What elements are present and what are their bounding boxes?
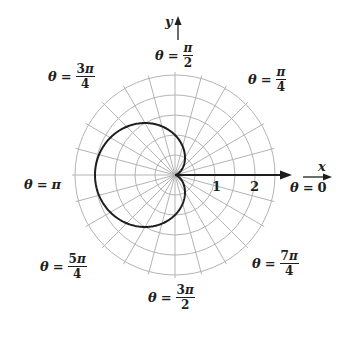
pi-symbol: π bbox=[184, 41, 193, 55]
angle-label-3pi-over-4: θ = 3π 4 bbox=[48, 63, 95, 90]
denominator: 4 bbox=[81, 77, 89, 90]
radial-tick-2: 2 bbox=[250, 180, 259, 193]
numerator-coef: 3 bbox=[177, 283, 185, 297]
radial-tick-1: 1 bbox=[212, 180, 221, 193]
pi-symbol: π bbox=[85, 62, 94, 76]
fraction: 7π 4 bbox=[280, 250, 299, 277]
angle-label-pi: θ = π bbox=[24, 178, 61, 191]
equals-sign: = bbox=[37, 178, 48, 191]
pi-symbol: π bbox=[277, 65, 286, 79]
pi-symbol: π bbox=[185, 283, 194, 297]
angle-label-pi-over-4: θ = π 4 bbox=[248, 66, 286, 93]
grid-spoke bbox=[175, 102, 248, 175]
theta-symbol: θ bbox=[148, 291, 157, 304]
angle-label-5pi-over-4: θ = 5π 4 bbox=[40, 253, 87, 280]
numerator-coef: 7 bbox=[281, 249, 289, 263]
grid-spoke bbox=[102, 175, 175, 248]
theta-symbol: θ bbox=[48, 70, 57, 83]
angle-value: 0 bbox=[318, 181, 327, 194]
fraction: π 4 bbox=[276, 66, 287, 93]
denominator: 2 bbox=[184, 56, 192, 69]
theta-symbol: θ bbox=[155, 49, 164, 62]
denominator: 4 bbox=[73, 267, 81, 280]
theta-symbol: θ bbox=[248, 73, 257, 86]
equals-sign: = bbox=[61, 70, 72, 83]
angle-label-pi-over-2: θ = π 2 bbox=[155, 42, 193, 69]
pi-symbol: π bbox=[289, 249, 298, 263]
equals-sign: = bbox=[161, 291, 172, 304]
polar-axis-arrow bbox=[175, 171, 292, 180]
denominator: 4 bbox=[277, 80, 285, 93]
numerator-coef: 5 bbox=[69, 252, 77, 266]
theta-symbol: θ bbox=[290, 181, 299, 194]
equals-sign: = bbox=[168, 49, 179, 62]
denominator: 2 bbox=[181, 298, 189, 311]
fraction: 3π 4 bbox=[76, 63, 95, 90]
pi-symbol: π bbox=[77, 252, 86, 266]
y-axis-arrow bbox=[175, 16, 182, 40]
grid-spoke bbox=[102, 102, 175, 175]
angle-label-zero: θ = 0 bbox=[290, 181, 327, 194]
numerator-coef: 3 bbox=[77, 62, 85, 76]
y-axis-label: y bbox=[165, 15, 173, 28]
denominator: 4 bbox=[285, 264, 293, 277]
fraction: 5π 4 bbox=[68, 253, 87, 280]
theta-symbol: θ bbox=[24, 178, 33, 191]
equals-sign: = bbox=[53, 260, 64, 273]
angle-label-7pi-over-4: θ = 7π 4 bbox=[252, 250, 299, 277]
equals-sign: = bbox=[303, 181, 314, 194]
x-axis-label: x bbox=[318, 160, 326, 173]
equals-sign: = bbox=[261, 73, 272, 86]
angle-value: π bbox=[52, 178, 62, 191]
theta-symbol: θ bbox=[252, 257, 261, 270]
polar-cardioid-figure: y x 1 2 θ = π 2 θ = 3π 4 θ = π 4 θ = π bbox=[0, 0, 348, 339]
fraction: π 2 bbox=[183, 42, 194, 69]
fraction: 3π 2 bbox=[176, 284, 195, 311]
equals-sign: = bbox=[265, 257, 276, 270]
theta-symbol: θ bbox=[40, 260, 49, 273]
angle-label-3pi-over-2: θ = 3π 2 bbox=[148, 284, 195, 311]
